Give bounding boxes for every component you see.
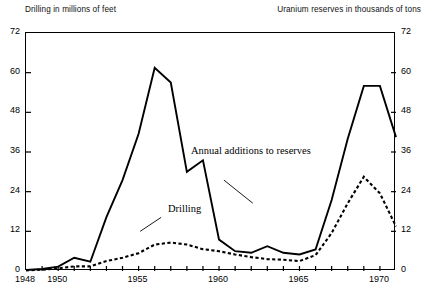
x-axis-tick-label: 1950 [47, 274, 67, 284]
series-line-reserves [26, 68, 396, 270]
x-axis-tick-label: 1955 [128, 274, 148, 284]
annotation-drilling: Drilling [168, 203, 201, 214]
y-axis-left-tick-label: 72 [0, 26, 20, 36]
y-axis-left-tick-label: 0 [0, 264, 20, 274]
x-axis-tick-label: 1948 [15, 274, 35, 284]
y-axis-right-tick-label: 0 [401, 264, 406, 274]
y-axis-right-tick-label: 36 [401, 145, 411, 155]
left-axis-title: Drilling in millions of feet [25, 5, 116, 14]
y-axis-left-tick-label: 36 [0, 145, 20, 155]
y-axis-left-tick-label: 12 [0, 224, 20, 234]
y-axis-right-tick-label: 60 [401, 66, 411, 76]
leader-line-reserves [224, 180, 253, 203]
uranium-drilling-chart: Drilling in millions of feet Uranium res… [0, 0, 426, 302]
tick-marks [26, 73, 396, 271]
right-axis-title: Uranium reserves in thousands of tons [277, 5, 421, 14]
x-axis-tick-label: 1960 [208, 274, 228, 284]
y-axis-right-tick-label: 12 [401, 224, 411, 234]
y-axis-left-tick-label: 60 [0, 66, 20, 76]
y-axis-right-tick-label: 72 [401, 26, 411, 36]
y-axis-right-tick-label: 24 [401, 185, 411, 195]
series-line-drilling [26, 177, 396, 271]
x-axis-tick-label: 1965 [288, 274, 308, 284]
y-axis-left-tick-label: 48 [0, 105, 20, 115]
leader-line-drilling [140, 217, 161, 231]
y-axis-left-tick-label: 24 [0, 185, 20, 195]
y-axis-right-tick-label: 48 [401, 105, 411, 115]
x-axis-tick-label: 1970 [369, 274, 389, 284]
annotation-reserves: Annual additions to reserves [191, 145, 311, 156]
